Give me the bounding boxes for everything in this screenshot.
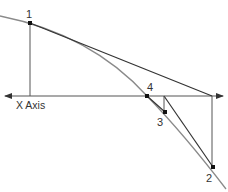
point-1-marker bbox=[28, 21, 32, 25]
newton-method-diagram: 1 2 3 4 X Axis bbox=[0, 0, 228, 192]
tangent-line-2 bbox=[164, 96, 213, 167]
point-1-label: 1 bbox=[26, 8, 32, 20]
point-3-marker bbox=[163, 110, 167, 114]
point-4-marker bbox=[145, 94, 149, 98]
point-2-label: 2 bbox=[206, 172, 212, 184]
point-3-label: 3 bbox=[157, 116, 163, 128]
x-axis-label: X Axis bbox=[16, 99, 45, 111]
tangent-line-3 bbox=[147, 96, 165, 112]
tangent-line-1 bbox=[30, 23, 212, 96]
point-4-label: 4 bbox=[147, 81, 153, 93]
point-2-marker bbox=[211, 165, 215, 169]
